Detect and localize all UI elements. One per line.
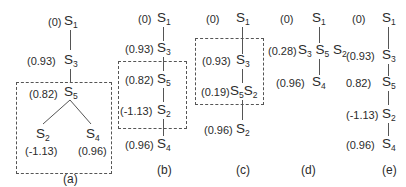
- node-s2: S2: [157, 102, 171, 119]
- value-label: (0.96): [276, 77, 305, 89]
- node-s2: S2: [236, 121, 250, 138]
- value-label: (0.82): [125, 74, 154, 86]
- panel-caption: (a): [63, 172, 78, 186]
- value-label: (0): [138, 13, 151, 25]
- node-s2: S2: [36, 126, 50, 143]
- panel-caption: (e): [382, 163, 397, 177]
- value-label: (0.93): [346, 50, 375, 62]
- value-label: (0): [352, 13, 365, 25]
- value-label: (0.93): [202, 55, 231, 67]
- edge: [388, 91, 389, 105]
- node-s4: S4: [312, 74, 326, 91]
- value-label: 0.82): [346, 77, 371, 89]
- node-s2: S2: [382, 106, 396, 123]
- node-s1: S1: [236, 10, 250, 27]
- node-s4: S4: [382, 136, 396, 153]
- edge: [319, 27, 320, 43]
- node-s3: S3: [382, 47, 396, 64]
- node-s3: S3: [157, 40, 171, 57]
- node-s3: S3: [236, 52, 250, 69]
- node-s4: S4: [157, 136, 171, 153]
- dashed-group-box: [118, 61, 187, 129]
- node-s1: S1: [157, 10, 171, 27]
- node-s4: S4: [86, 126, 100, 143]
- value-label: (0.96): [78, 145, 107, 157]
- value-label: (0.96): [125, 139, 154, 151]
- value-label: (0.96): [346, 139, 375, 151]
- node-s3s5s2: S3 S5 S2: [298, 42, 347, 59]
- node-s5s2: S5S2: [230, 83, 258, 100]
- node-s1: S1: [382, 10, 396, 27]
- node-s1: S1: [312, 10, 326, 27]
- value-label: (-1.13): [346, 109, 378, 121]
- panel-caption: (b): [157, 163, 172, 177]
- value-label: (0): [206, 13, 219, 25]
- value-label: (0.96): [204, 124, 233, 136]
- edge: [388, 27, 389, 49]
- value-label: (0.19): [201, 86, 230, 98]
- edge: [319, 59, 320, 75]
- value-label: (-1.13): [25, 145, 57, 157]
- value-label: (-1.13): [120, 105, 152, 117]
- panel-caption: (c): [236, 163, 250, 177]
- edge: [242, 69, 243, 83]
- value-label: (0.93): [125, 43, 154, 55]
- node-s5: S5: [157, 71, 171, 88]
- value-label: (0): [280, 13, 293, 25]
- panel-caption: (d): [301, 163, 316, 177]
- edge: [163, 119, 164, 136]
- value-label: (0.28): [268, 45, 297, 57]
- node-s5: S5: [382, 74, 396, 91]
- edge: [242, 100, 243, 120]
- edge: [388, 123, 389, 136]
- edge: [163, 27, 164, 41]
- edge: [163, 88, 164, 102]
